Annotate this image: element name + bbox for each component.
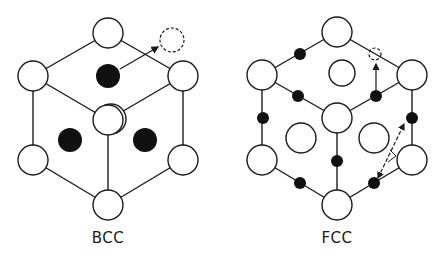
- interstitial-atom: [133, 128, 157, 152]
- lattice-atom: [397, 60, 427, 90]
- interstitial-atom: [370, 90, 382, 102]
- interstitial-atom: [294, 177, 306, 189]
- lattice-atom: [168, 61, 198, 91]
- interstitial-atom: [58, 128, 82, 152]
- lattice-atom: [168, 145, 198, 175]
- bcc-label: BCC: [92, 229, 124, 247]
- lattice-atom: [286, 123, 316, 153]
- vacancy-site: [160, 28, 184, 52]
- lattice-atom: [359, 123, 389, 153]
- lattice-atom: [322, 190, 352, 220]
- interstitial-atom: [292, 90, 304, 102]
- lattice-atom: [247, 60, 277, 90]
- lattice-atom: [322, 103, 352, 133]
- interstitial-atom: [257, 112, 269, 124]
- lattice-atom: [322, 17, 352, 47]
- lattice-atom: [18, 61, 48, 91]
- interstitial-atom: [331, 155, 343, 167]
- lattice-atom: [93, 105, 123, 135]
- bcc-unit-cell: [18, 18, 198, 220]
- crystal-lattice-diagram: [0, 0, 445, 256]
- interstitial-atom: [368, 177, 380, 189]
- interstitial-atom: [406, 112, 418, 124]
- lattice-atom: [93, 190, 123, 220]
- lattice-atom: [329, 60, 355, 86]
- lattice-atom: [18, 145, 48, 175]
- fcc-label: FCC: [321, 229, 352, 247]
- lattice-atom: [93, 18, 123, 48]
- fcc-unit-cell: [247, 17, 427, 220]
- lattice-atom: [397, 145, 427, 175]
- interstitial-atom: [96, 64, 120, 88]
- lattice-atom: [247, 145, 277, 175]
- interstitial-atom: [294, 48, 306, 60]
